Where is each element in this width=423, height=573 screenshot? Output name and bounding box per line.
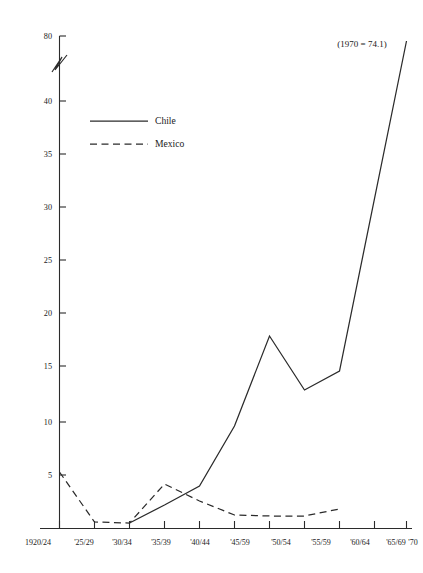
x-tick-label-55-59: '55/59 [311,538,331,547]
y-tick-label-20: 20 [44,309,52,318]
x-tick-label-1920-24: 1920/24 [25,538,51,547]
x-tick-label-50-54: '50/54 [271,538,291,547]
line-chart-figure: 80 40 35 30 25 20 15 10 5 1920/24 '25/ [0,0,423,573]
x-tick-label-30-34: '30/34 [112,538,132,547]
legend-label-chile: Chile [155,115,176,126]
y-tick-label-5: 5 [48,471,52,480]
series-line-chile [130,41,407,523]
x-tick-label-70: '70 [408,538,417,547]
y-tick-label-30: 30 [44,203,52,212]
x-tick-label-60-64: '60/64 [350,538,370,547]
legend-label-mexico: Mexico [155,138,185,149]
x-tick-label-40-44: '40/44 [190,538,210,547]
series-line-mexico [60,472,340,523]
y-axis: 80 40 35 30 25 20 15 10 5 [44,32,67,529]
y-tick-label-10: 10 [44,418,52,427]
x-tick-label-65-69: '65/69 [386,538,406,547]
series-group [60,41,407,523]
chart-legend: Chile Mexico [90,115,185,149]
y-tick-label-80: 80 [44,32,52,41]
annotation-1970-value: (1970 = 74.1) [337,39,386,49]
x-axis: 1920/24 '25/29 '30/34 '35/39 '40/44 '45/… [25,521,418,547]
y-tick-label-40: 40 [44,97,52,106]
y-tick-label-15: 15 [44,362,52,371]
x-tick-label-25-29: '25/29 [74,538,94,547]
x-tick-label-35-39: '35/39 [151,538,171,547]
x-tick-label-45-59: '45/59 [230,538,250,547]
y-tick-label-25: 25 [44,256,52,265]
chart-container: 80 40 35 30 25 20 15 10 5 1920/24 '25/ [0,0,423,573]
y-tick-label-35: 35 [44,150,52,159]
